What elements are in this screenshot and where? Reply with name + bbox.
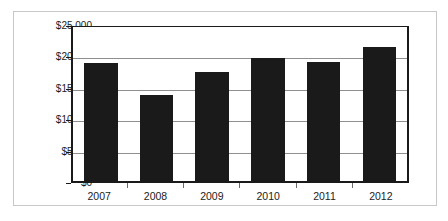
- bar-2012[interactable]: [363, 47, 396, 181]
- x-axis-label-2007: 2007: [71, 190, 127, 202]
- bar-slot-2009: [184, 27, 240, 181]
- x-axis-label-2012: 2012: [353, 190, 409, 202]
- x-axis-tick-4: [296, 183, 297, 188]
- bar-2009[interactable]: [195, 72, 228, 181]
- bar-slot-2012: [351, 27, 407, 181]
- x-axis-tick-3: [239, 183, 240, 188]
- bar-2010[interactable]: [251, 58, 284, 181]
- y-axis-tick-0: [66, 183, 71, 184]
- bar-2007[interactable]: [84, 63, 117, 181]
- bar-series: [73, 27, 407, 181]
- bar-slot-2008: [129, 27, 185, 181]
- x-axis-label-2009: 2009: [184, 190, 240, 202]
- bar-slot-2010: [240, 27, 296, 181]
- bar-2008[interactable]: [140, 95, 173, 181]
- x-axis-tick-1: [127, 183, 128, 188]
- x-axis-tick-5: [352, 183, 353, 188]
- x-axis-labels: 2007 2008 2009 2010 2011 2012: [71, 190, 409, 202]
- x-axis-label-2010: 2010: [240, 190, 296, 202]
- bar-2011[interactable]: [307, 62, 340, 182]
- bar-chart-figure: $25,000 $20,000 $15,000 $10,000 $5,000 $…: [13, 11, 437, 206]
- bar-slot-2007: [73, 27, 129, 181]
- x-axis-label-2011: 2011: [296, 190, 352, 202]
- plot-area: [71, 26, 409, 183]
- x-axis-label-2008: 2008: [127, 190, 183, 202]
- bar-slot-2011: [296, 27, 352, 181]
- x-axis-tick-2: [183, 183, 184, 188]
